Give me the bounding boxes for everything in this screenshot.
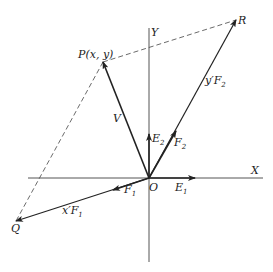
label-x: X (250, 164, 260, 177)
label-q: Q (11, 222, 20, 235)
label-yF2: y′F2 (204, 74, 226, 89)
label-p: P(x, y) (77, 48, 113, 61)
label-y: Y (151, 26, 160, 39)
label-o: O (149, 181, 158, 194)
label-v: V (113, 112, 122, 125)
vector-v (103, 62, 149, 178)
label-e2: E2 (151, 132, 165, 147)
label-xF1: x′F1 (62, 204, 83, 219)
label-f2: F2 (173, 136, 187, 151)
label-r: R (237, 14, 246, 27)
vector-diagram: P(x, y) R Q O X Y V E1 E2 F1 F2 x′F1 y′F… (0, 0, 273, 272)
label-e1: E1 (174, 181, 188, 196)
label-f1: F1 (123, 183, 136, 198)
